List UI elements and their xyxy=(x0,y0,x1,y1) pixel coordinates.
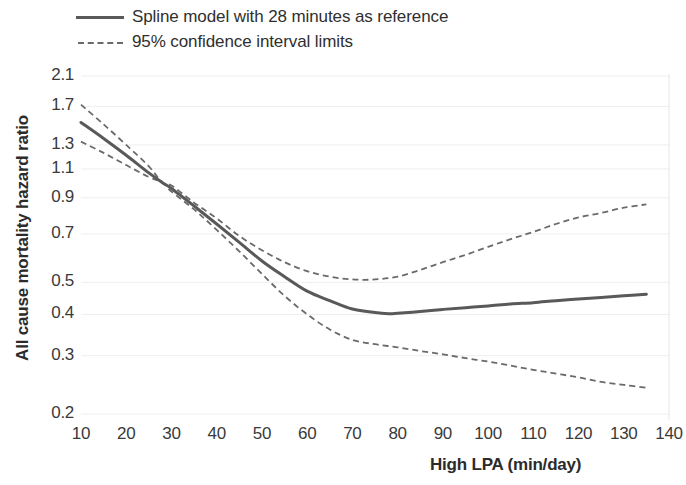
chart-figure: Spline model with 28 minutes as referenc… xyxy=(0,0,686,485)
curve-confidence-upper xyxy=(81,105,646,280)
plot-area xyxy=(0,0,686,485)
curve-confidence-lower xyxy=(81,142,646,388)
gridlines xyxy=(81,76,670,414)
curve-spline-model xyxy=(81,122,646,313)
